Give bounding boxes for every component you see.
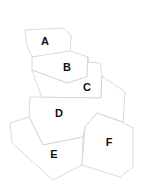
region-a-label: A bbox=[41, 35, 49, 47]
region-e-label: E bbox=[50, 148, 57, 160]
region-f: F bbox=[82, 113, 133, 177]
region-d-label: D bbox=[55, 107, 63, 119]
region-c-label: C bbox=[83, 81, 91, 93]
region-diagram: ABCDEF bbox=[0, 0, 141, 191]
region-b-label: B bbox=[63, 61, 71, 73]
region-f-label: F bbox=[106, 136, 113, 148]
